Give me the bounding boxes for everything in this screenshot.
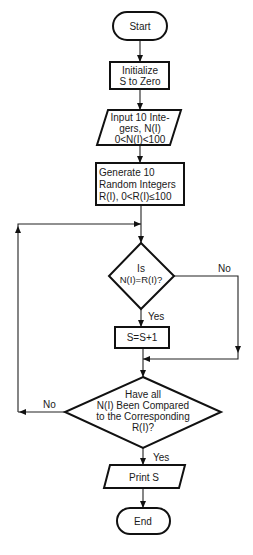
node-end: End xyxy=(117,508,170,534)
node-input: Input 10 Inte- gers, N(I) 0<N(I)<100 xyxy=(97,110,181,145)
node-input-line-1: Input 10 Inte- xyxy=(111,112,170,123)
edge-no-merge xyxy=(143,353,238,359)
node-print-label: Print S xyxy=(129,472,159,483)
edge-loop-return xyxy=(18,224,141,412)
node-decision2-line-4: R(I)? xyxy=(132,422,155,433)
arrowhead-icon xyxy=(138,320,144,327)
node-increment-label: S=S+1 xyxy=(127,332,158,343)
node-print: Print S xyxy=(104,465,185,488)
node-decision2-line-2: N(I) Been Compared xyxy=(97,400,189,411)
node-decision1-line-1: Is xyxy=(137,263,145,274)
node-init-line-1: Initialize xyxy=(122,65,159,76)
node-init-line-2: S to Zero xyxy=(119,76,161,87)
arrowhead-icon xyxy=(137,156,143,163)
edge-decision1-no xyxy=(174,276,238,353)
decision1-no-label: No xyxy=(218,263,231,274)
decision1-yes-label: Yes xyxy=(148,311,164,322)
decision2-no-label: No xyxy=(43,399,56,410)
node-increment: S=S+1 xyxy=(115,327,169,348)
node-decision1: Is N(I)=R(I)? xyxy=(109,243,174,309)
node-decision2: Have all N(I) Been Compared to the Corre… xyxy=(65,377,221,448)
node-decision1-line-2: N(I)=R(I)? xyxy=(120,274,163,285)
node-generate-line-1: Generate 10 xyxy=(99,167,155,178)
arrowhead-icon xyxy=(15,226,21,233)
node-start: Start xyxy=(113,12,167,40)
arrowhead-icon xyxy=(134,221,141,227)
node-decision2-line-1: Have all xyxy=(125,389,161,400)
arrowhead-icon xyxy=(140,501,146,508)
decision2-yes-label: Yes xyxy=(153,452,169,463)
arrowhead-icon xyxy=(143,356,150,362)
flowchart: Start Initialize S to Zero Input 10 Inte… xyxy=(0,0,253,555)
node-input-line-2: gers, N(I) xyxy=(119,123,161,134)
node-decision2-line-3: to the Corresponding xyxy=(96,411,189,422)
arrowhead-icon xyxy=(137,103,143,110)
node-input-line-3: 0<N(I)<100 xyxy=(115,134,166,145)
node-start-label: Start xyxy=(129,21,150,32)
node-generate-line-2: Random Integers xyxy=(99,179,176,190)
arrowhead-icon xyxy=(140,458,146,465)
arrowhead-icon xyxy=(137,55,143,62)
node-generate: Generate 10 Random Integers R(I), 0<R(I)… xyxy=(96,163,184,205)
node-generate-line-3: R(I), 0<R(I)≤100 xyxy=(99,191,172,202)
arrowhead-icon xyxy=(19,409,26,415)
node-end-label: End xyxy=(134,516,152,527)
arrowhead-icon xyxy=(235,346,241,353)
node-init: Initialize S to Zero xyxy=(110,62,169,89)
